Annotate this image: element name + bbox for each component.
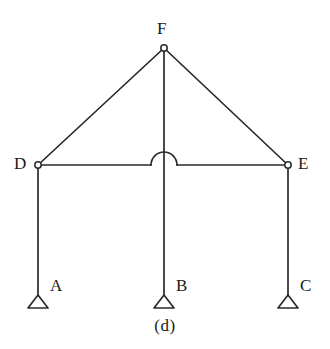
frame-diagram-svg	[0, 0, 330, 349]
support-pin-B-icon	[154, 295, 174, 308]
member-rafter-DF	[38, 48, 164, 165]
figure-caption: (d)	[0, 316, 330, 336]
joint-hinge-F-icon	[161, 45, 167, 51]
member-rafter-EF	[164, 48, 288, 165]
node-label-D: D	[14, 155, 26, 172]
node-label-B: B	[176, 277, 187, 294]
support-pin-C-icon	[278, 295, 298, 308]
structural-frame-figure: F D E A B C (d)	[0, 0, 330, 349]
joint-hinge-E-icon	[285, 162, 291, 168]
joint-hinge-D-icon	[35, 162, 41, 168]
support-pin-A-icon	[28, 295, 48, 308]
node-label-E: E	[298, 155, 308, 172]
node-label-A: A	[50, 277, 62, 294]
node-label-C: C	[300, 277, 311, 294]
node-label-F: F	[157, 20, 166, 37]
